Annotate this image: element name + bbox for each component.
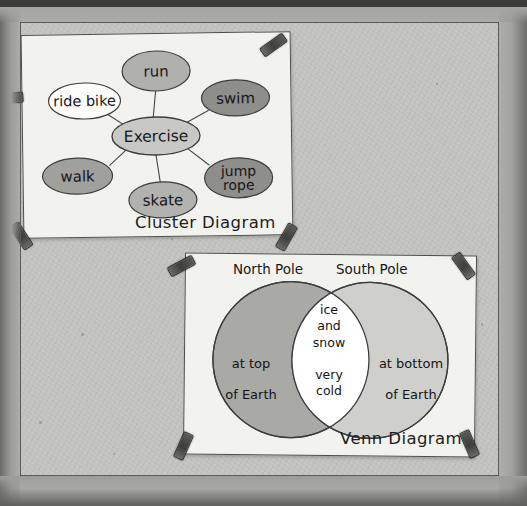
venn-cell-intersection: ice and snow very cold: [303, 302, 355, 400]
cluster-node-jump-rope[interactable]: jump rope: [204, 157, 273, 198]
cluster-node-run[interactable]: run: [122, 51, 191, 92]
poster-scene: run ride bike swim Exercise walk: [0, 0, 527, 506]
cluster-node-swim[interactable]: swim: [201, 79, 269, 116]
venn-right-line-1: at bottom: [363, 356, 459, 371]
cluster-node-exercise-label: Exercise: [124, 127, 189, 146]
cluster-node-swim-label: swim: [216, 89, 255, 108]
venn-label-north-pole: North Pole: [233, 261, 303, 277]
frame-top-shadow: [0, 0, 527, 7]
cluster-node-exercise[interactable]: Exercise: [112, 116, 201, 155]
frame-left-edge: [0, 6, 20, 506]
venn-label-south-pole: South Pole: [336, 261, 408, 277]
venn-cell-left-only: at top of Earth: [205, 341, 297, 418]
cluster-node-ride-bike-label: ride bike: [53, 93, 116, 110]
cluster-node-walk-label: walk: [60, 167, 95, 185]
venn-cell-right-only: at bottom of Earth: [363, 341, 459, 418]
cluster-diagram-caption: Cluster Diagram: [135, 213, 276, 232]
cluster-node-ride-bike[interactable]: ride bike: [48, 83, 120, 120]
venn-right-line-2: of Earth: [363, 387, 459, 402]
cluster-diagram-graphic: run ride bike swim Exercise walk: [22, 32, 293, 238]
cluster-diagram-sheet[interactable]: run ride bike swim Exercise walk: [21, 31, 294, 239]
cluster-node-walk[interactable]: walk: [42, 158, 112, 195]
venn-diagram-caption: Venn Diagram: [340, 429, 462, 448]
venn-left-line-2: of Earth: [205, 387, 297, 402]
venn-left-line-1: at top: [205, 356, 297, 371]
frame-bottom-edge: [0, 476, 527, 506]
tape-cluster-left: [0, 92, 24, 105]
cluster-node-skate-label: skate: [143, 191, 184, 210]
cluster-node-jump-rope-label-2: rope: [223, 177, 255, 193]
frame-right-edge: [499, 6, 527, 506]
frame-top-edge: [0, 0, 527, 22]
cluster-node-run-label: run: [143, 62, 168, 80]
